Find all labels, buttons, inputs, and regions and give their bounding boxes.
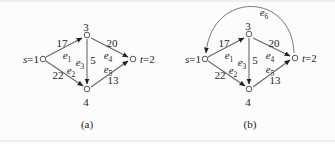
weight-e4: 20 — [107, 37, 119, 49]
edge-name-e4: e4 — [266, 49, 275, 64]
panel-b: s=1 3 4 t=2 17 20 5 22 13 e1 e4 e3 e2 e5… — [185, 6, 317, 131]
edge-name-e6: e6 — [260, 6, 269, 21]
node-label-3: 3 — [83, 21, 89, 33]
weight-e3: 5 — [90, 54, 96, 66]
weight-e2: 22 — [215, 69, 226, 81]
flow-network-figure: s=1 3 4 t=2 17 20 5 22 13 e1 e4 e3 e2 e5… — [0, 0, 335, 144]
caption-b: (b) — [244, 118, 257, 131]
edge-name-e4: e4 — [104, 49, 113, 64]
weight-e2: 22 — [53, 69, 64, 81]
node-4 — [84, 86, 90, 92]
node-3 — [246, 31, 252, 37]
node-s1 — [202, 56, 208, 62]
edge-name-e3: e3 — [76, 56, 85, 71]
weight-e1: 17 — [219, 37, 231, 49]
weight-e1: 17 — [57, 37, 69, 49]
edge-name-e5: e5 — [104, 63, 113, 78]
graph-canvas: s=1 3 4 t=2 17 20 5 22 13 e1 e4 e3 e2 e5… — [0, 0, 335, 144]
panel-a: s=1 3 4 t=2 17 20 5 22 13 e1 e4 e3 e2 e5… — [23, 21, 155, 131]
edge-name-e3: e3 — [238, 56, 247, 71]
node-t2 — [130, 56, 136, 62]
weight-e3: 5 — [252, 54, 258, 66]
edge-name-e1: e1 — [225, 49, 234, 64]
node-label-s1: s=1 — [185, 53, 201, 65]
weight-e4: 20 — [269, 37, 281, 49]
caption-a: (a) — [81, 118, 94, 131]
edge-name-e5: e5 — [266, 63, 275, 78]
edge-name-e1: e1 — [63, 49, 72, 64]
node-label-t2: t=2 — [302, 52, 317, 64]
node-label-3: 3 — [245, 20, 251, 32]
node-label-t2: t=2 — [140, 53, 155, 65]
node-3 — [84, 32, 90, 38]
node-t2 — [292, 55, 298, 61]
node-s1 — [40, 56, 46, 62]
node-label-4: 4 — [245, 96, 251, 108]
node-4 — [246, 86, 252, 92]
node-label-s1: s=1 — [23, 53, 39, 65]
node-label-4: 4 — [83, 96, 89, 108]
